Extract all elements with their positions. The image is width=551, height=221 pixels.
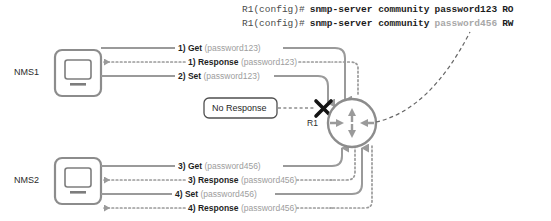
flow-4-set-num: 4) Set [175, 189, 198, 199]
flow-3-response-password: (password456) [241, 175, 297, 185]
flow-2-set-password: (password123) [204, 71, 260, 81]
flow-2-set-label: 2) Set (password123) [178, 72, 260, 81]
flow-1-response-password: (password123) [241, 57, 297, 67]
cli-command-2: snmp-server community [310, 18, 430, 29]
flow-4-response-password: (password456) [241, 203, 297, 213]
diagram-graphics [0, 0, 551, 221]
flow-3-response-label: 3) Response (password456) [188, 176, 297, 185]
r1-router-icon [328, 99, 376, 147]
r1-label: R1 [307, 119, 318, 128]
no-response-label: No Response [212, 104, 267, 113]
snmp-diagram-canvas: R1(config)#snmp-server communitypassword… [0, 0, 551, 221]
cli-password-1: password123 [434, 4, 497, 15]
flow-1-get-num: 1) Get [178, 43, 202, 53]
flow-1-response-label: 1) Response (password123) [188, 58, 297, 67]
cli-command-1: snmp-server community [310, 4, 430, 15]
flow-4-set-password: (password456) [201, 189, 257, 199]
cli-config-line-1: R1(config)#snmp-server communitypassword… [242, 5, 514, 15]
flow-1-response-num: 1) Response [188, 57, 239, 67]
flow-3-get-num: 3) Get [178, 161, 202, 171]
flow-3-response-num: 3) Response [188, 175, 239, 185]
flow-3-get-line-right [283, 148, 342, 166]
config-leader-line [376, 32, 470, 122]
cli-password-2: password456 [434, 18, 497, 29]
cli-prompt-1: R1(config)# [242, 4, 305, 15]
flow-2-set-num: 2) Set [178, 71, 201, 81]
flow-4-set-label: 4) Set (password456) [175, 190, 257, 199]
cli-mode-1: RO [502, 4, 513, 15]
flow-2-set-line-right [274, 76, 328, 103]
flow-3-get-label: 3) Get (password456) [178, 162, 261, 171]
cli-config-line-2: R1(config)#snmp-server communitypassword… [242, 19, 514, 29]
flow-4-response-label: 4) Response (password456) [188, 204, 297, 213]
cli-prompt-2: R1(config)# [242, 18, 305, 29]
nms2-label: NMS2 [14, 176, 39, 185]
flow-4-response-line-curve [330, 146, 372, 208]
flow-4-response-num: 4) Response [188, 203, 239, 213]
nms1-label: NMS1 [14, 68, 39, 77]
flow-1-get-label: 1) Get (password123) [178, 44, 261, 53]
flow-4-set-line-right [275, 148, 362, 194]
nms1-device-icon [55, 50, 101, 96]
cli-mode-2: RW [502, 18, 513, 29]
flow-3-get-password: (password456) [204, 161, 260, 171]
flow-1-get-line-right [283, 48, 345, 100]
flow-1-get-password: (password123) [204, 43, 260, 53]
nms2-device-icon [55, 158, 101, 204]
